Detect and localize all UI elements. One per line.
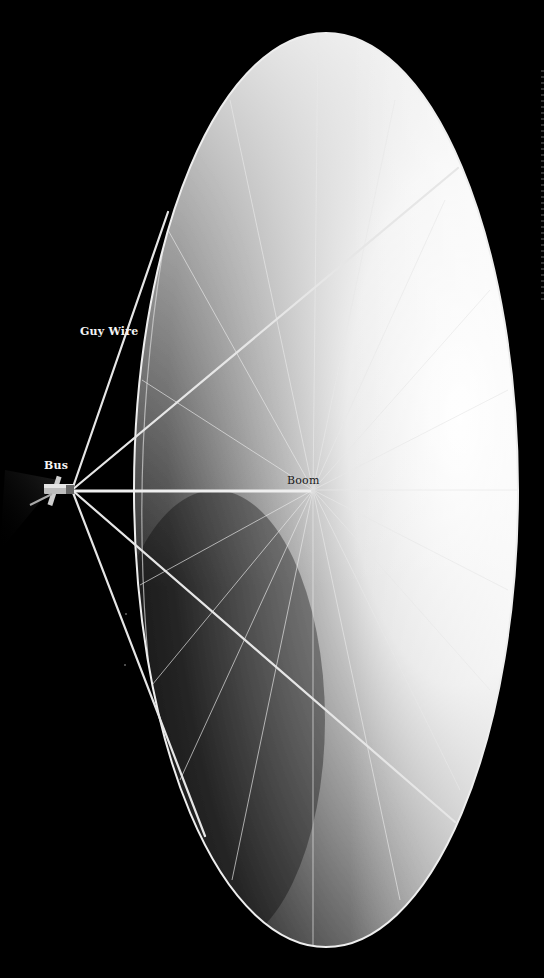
bus-shadow <box>0 470 58 550</box>
reflector-diagram <box>0 0 544 978</box>
boom-label: Boom <box>287 474 320 487</box>
boom-hub <box>311 489 315 493</box>
bus-label: Bus <box>44 459 68 472</box>
guy-wire-label: Guy Wire <box>80 325 138 338</box>
